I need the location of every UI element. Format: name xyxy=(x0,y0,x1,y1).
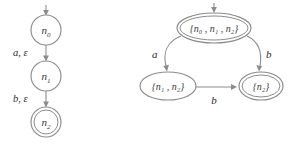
right-dfa-diagram: {n₀ , n₁ , n₂} a b {n₁ , n₂} b xyxy=(140,3,283,106)
transition-n1-n2: b, ε xyxy=(13,91,49,108)
state-set-n0-n1-n2-label: {n₀ , n₁ , n₂} xyxy=(190,23,238,34)
transition-s0-s2: b xyxy=(247,36,272,72)
state-set-n1-n2[interactable]: {n₁ , n₂} xyxy=(140,72,196,100)
transition-s0-s1: a xyxy=(152,36,181,72)
transition-s0-s2-label: b xyxy=(266,48,272,60)
state-set-n0-n1-n2[interactable]: {n₀ , n₁ , n₂} xyxy=(177,13,251,43)
state-set-n2-label: {n₂} xyxy=(253,81,269,92)
transition-s1-s2: b xyxy=(196,84,237,106)
left-nfa-diagram: n0 a, ε n1 b, ε n2 xyxy=(13,5,61,137)
automata-figure: n0 a, ε n1 b, ε n2 xyxy=(0,0,292,148)
start-arrow-n0 xyxy=(43,5,49,16)
state-n0[interactable]: n0 xyxy=(31,15,61,45)
transition-n0-n1: a, ε xyxy=(13,45,49,62)
start-arrow-s0 xyxy=(211,3,217,13)
transition-n0-n1-label: a, ε xyxy=(13,47,29,58)
state-n1[interactable]: n1 xyxy=(31,61,61,91)
transition-n1-n2-label: b, ε xyxy=(13,93,29,104)
state-set-n1-n2-label: {n₁ , n₂} xyxy=(152,81,184,92)
state-n2[interactable]: n2 xyxy=(31,107,61,137)
transition-s0-s1-label: a xyxy=(152,48,158,60)
transition-s1-s2-label: b xyxy=(211,94,217,106)
figure-canvas: n0 a, ε n1 b, ε n2 xyxy=(0,0,292,148)
state-set-n2[interactable]: {n₂} xyxy=(239,72,283,100)
